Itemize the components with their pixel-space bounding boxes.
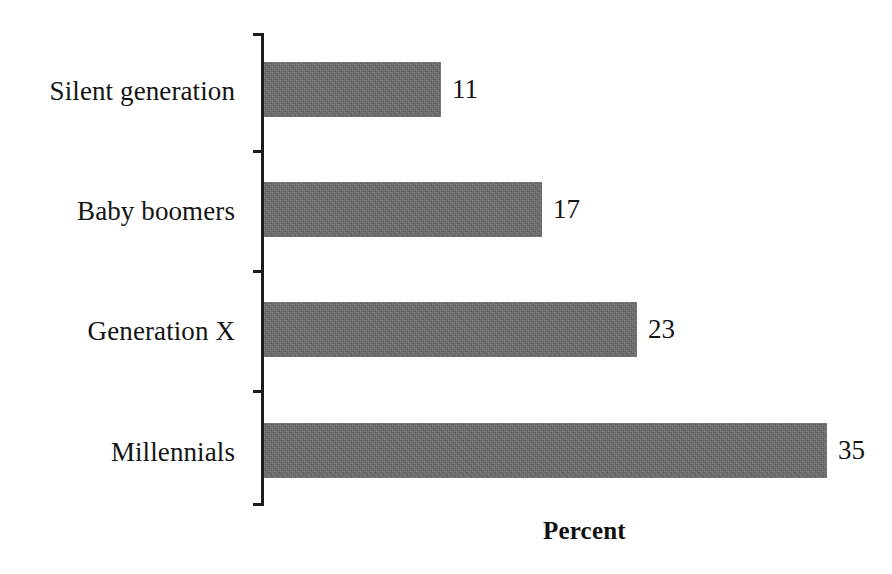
- value-label-silent-generation: 11: [452, 76, 478, 103]
- value-label-generation-x: 23: [648, 316, 675, 343]
- y-axis-tick-1: [253, 150, 264, 153]
- category-label-generation-x: Generation X: [88, 318, 235, 345]
- category-label-silent-generation: Silent generation: [50, 78, 235, 105]
- category-label-baby-boomers: Baby boomers: [77, 198, 235, 225]
- x-axis-title: Percent: [543, 518, 626, 543]
- value-label-millennials: 35: [838, 437, 865, 464]
- bar-baby-boomers: [264, 182, 542, 237]
- bar-silent-generation: [264, 62, 441, 117]
- y-axis-tick-bottom: [253, 503, 264, 506]
- bar-generation-x: [264, 302, 637, 357]
- bar-millennials: [264, 423, 827, 478]
- bar-chart: Silent generation Baby boomers Generatio…: [0, 0, 892, 574]
- category-label-millennials: Millennials: [111, 439, 235, 466]
- y-axis-tick-3: [253, 390, 264, 393]
- value-label-baby-boomers: 17: [553, 196, 580, 223]
- y-axis-tick-2: [253, 270, 264, 273]
- y-axis-tick-top: [253, 33, 264, 36]
